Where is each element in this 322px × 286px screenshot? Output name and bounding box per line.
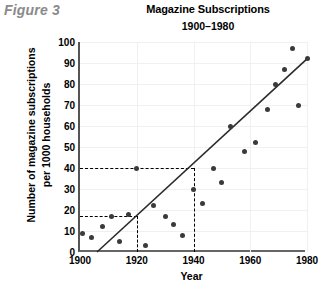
data-point (80, 231, 85, 236)
y-axis-tick-label: 40 (64, 163, 75, 174)
x-axis-tick-label: 1980 (296, 255, 318, 266)
y-axis-tick-label: 30 (64, 184, 75, 195)
data-point (296, 103, 301, 108)
data-point (265, 107, 270, 112)
x-axis-label: Year (78, 270, 305, 282)
y-axis-label-line1: Number of magazine subscriptions (25, 47, 37, 222)
data-point (89, 235, 94, 240)
trend-line-segment (97, 59, 307, 252)
gridline-vertical (307, 42, 308, 252)
y-axis-tick-label: 20 (64, 205, 75, 216)
y-axis-tick-label: 70 (64, 100, 75, 111)
data-point (211, 166, 216, 171)
data-point (134, 166, 139, 171)
y-axis-label: Number of magazine subscriptions per 100… (24, 35, 54, 235)
y-axis-tick-label: 50 (64, 142, 75, 153)
y-axis-tick-label: 80 (64, 79, 75, 90)
x-axis-tick-label: 1900 (69, 255, 91, 266)
y-axis-tick-label: 90 (64, 58, 75, 69)
data-point (191, 187, 196, 192)
chart-subtitle: 1900–1980 (108, 20, 308, 32)
data-point (109, 214, 114, 219)
data-point (242, 149, 247, 154)
y-axis-tick-label: 10 (64, 226, 75, 237)
data-point (126, 212, 131, 217)
x-axis-tick-label: 1960 (239, 255, 261, 266)
data-point (163, 214, 168, 219)
data-point (143, 243, 148, 248)
y-axis-tick-label: 100 (58, 37, 75, 48)
data-point (228, 124, 233, 129)
y-axis-tick-label: 60 (64, 121, 75, 132)
data-point (282, 67, 287, 72)
x-axis-tick-label: 1940 (182, 255, 204, 266)
trend-line (80, 42, 307, 252)
chart-title: Magazine Subscriptions (108, 3, 308, 15)
x-axis-tick-label: 1920 (126, 255, 148, 266)
y-axis-label-line2: per 1000 households (39, 35, 54, 235)
data-point (180, 233, 185, 238)
plot-area: 0102030405060708090100 19001920194019601… (78, 42, 305, 252)
data-point (200, 201, 205, 206)
data-point (273, 82, 278, 87)
data-point (305, 56, 310, 61)
figure-caption: Figure 3 (4, 2, 60, 18)
